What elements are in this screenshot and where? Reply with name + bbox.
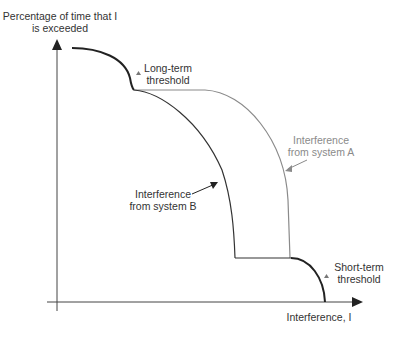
y-axis-label-line1: Percentage of time that I bbox=[0, 10, 120, 22]
system-a-curve bbox=[134, 90, 290, 258]
system-a-line2: from system A bbox=[286, 146, 356, 158]
y-axis bbox=[52, 39, 62, 311]
short-term-threshold-label: Short-term threshold bbox=[330, 261, 388, 285]
system-a-label: Interference from system A bbox=[286, 134, 356, 158]
long-term-threshold-label: Long-term threshold bbox=[140, 62, 196, 86]
diagram-graphics bbox=[0, 0, 397, 337]
x-axis-label: Interference, I bbox=[274, 311, 364, 323]
short-term-line2: threshold bbox=[330, 273, 388, 285]
short-term-threshold-curve bbox=[291, 258, 325, 302]
system-a-line1: Interference bbox=[286, 134, 356, 146]
system-b-curve bbox=[134, 90, 235, 258]
long-term-threshold-curve bbox=[72, 48, 134, 90]
short-term-marker-icon bbox=[324, 274, 329, 278]
long-term-line1: Long-term bbox=[140, 62, 196, 74]
y-axis-label-line2: is exceeded bbox=[0, 22, 120, 34]
system-b-line1: Interference bbox=[128, 188, 198, 200]
y-axis-label: Percentage of time that I is exceeded bbox=[0, 10, 120, 34]
short-term-line1: Short-term bbox=[330, 261, 388, 273]
long-term-line2: threshold bbox=[140, 74, 196, 86]
system-b-line2: from system B bbox=[128, 200, 198, 212]
system-a-arrowhead-icon bbox=[285, 165, 292, 172]
x-axis bbox=[47, 297, 363, 307]
interference-threshold-diagram: Percentage of time that I is exceeded Lo… bbox=[0, 0, 397, 337]
system-b-label: Interference from system B bbox=[128, 188, 198, 212]
